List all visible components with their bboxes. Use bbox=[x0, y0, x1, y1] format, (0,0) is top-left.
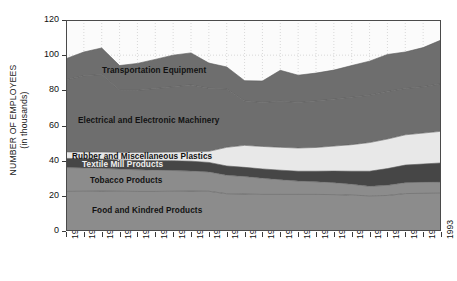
x-tick-mark bbox=[120, 232, 121, 237]
x-tick-mark bbox=[280, 232, 281, 237]
band-label-textile-mill-products: Textile Mill Products bbox=[82, 160, 163, 169]
x-tick-mark bbox=[441, 232, 442, 237]
y-axis-label-line1: NUMBER OF EMPLOYEES bbox=[8, 65, 19, 176]
x-tick-mark bbox=[84, 232, 85, 237]
x-tick-mark bbox=[245, 232, 246, 237]
y-tick-80: 80 bbox=[33, 84, 59, 94]
band-label-electrical-and-electronic-machinery: Electrical and Electronic Machinery bbox=[78, 116, 219, 125]
band-label-transportation-equipment: Transportation Equipment bbox=[102, 66, 206, 75]
y-axis-label: NUMBER OF EMPLOYEES (in thousands) bbox=[2, 0, 36, 240]
x-tick-mark bbox=[316, 232, 317, 237]
x-tick-1993: 1993 bbox=[445, 220, 455, 239]
y-tick-60: 60 bbox=[33, 120, 59, 130]
x-tick-mark bbox=[137, 232, 138, 237]
x-tick-mark bbox=[227, 232, 228, 237]
x-tick-mark bbox=[387, 232, 388, 237]
y-axis-label-line2: (in thousands) bbox=[19, 65, 30, 176]
x-tick-mark bbox=[102, 232, 103, 237]
y-tick-20: 20 bbox=[33, 190, 59, 200]
stacked-area-chart-figure: NUMBER OF EMPLOYEES (in thousands) 02040… bbox=[0, 0, 457, 281]
band-label-tobacco-products: Tobacco Products bbox=[90, 176, 162, 185]
x-tick-mark bbox=[423, 232, 424, 237]
y-tick-120: 120 bbox=[33, 14, 59, 24]
x-tick-mark bbox=[155, 232, 156, 237]
plot-area bbox=[66, 20, 441, 231]
band-label-food-and-kindred-products: Food and Kindred Products bbox=[92, 206, 202, 215]
y-tick-100: 100 bbox=[33, 49, 59, 59]
x-tick-mark bbox=[405, 232, 406, 237]
chart-title bbox=[100, 0, 400, 9]
y-tick-40: 40 bbox=[33, 155, 59, 165]
x-tick-mark bbox=[334, 232, 335, 237]
chart-svg bbox=[66, 20, 441, 231]
x-tick-mark bbox=[66, 232, 67, 237]
x-tick-mark bbox=[209, 232, 210, 237]
x-tick-mark bbox=[262, 232, 263, 237]
x-tick-mark bbox=[298, 232, 299, 237]
x-tick-mark bbox=[370, 232, 371, 237]
y-tick-0: 0 bbox=[33, 225, 59, 235]
x-tick-mark bbox=[352, 232, 353, 237]
x-tick-mark bbox=[191, 232, 192, 237]
x-tick-mark bbox=[173, 232, 174, 237]
